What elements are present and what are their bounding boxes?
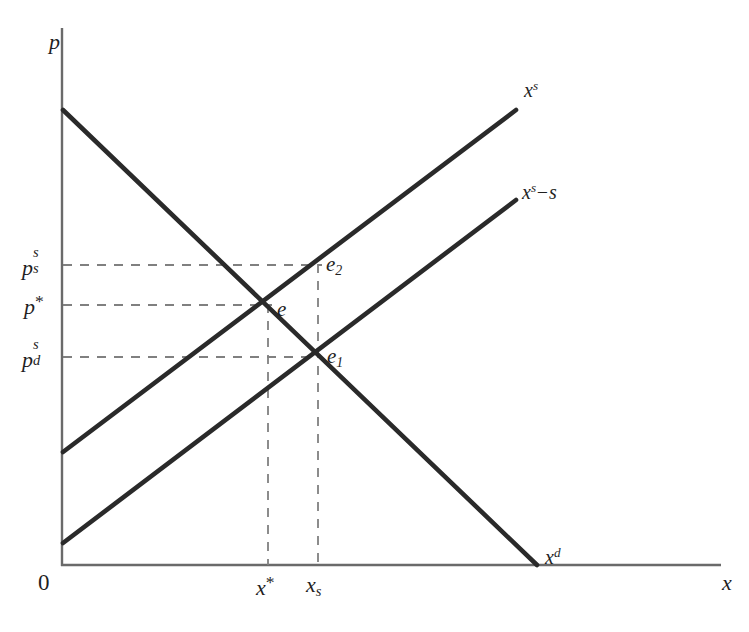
x-axis-label: x — [722, 572, 732, 594]
point-label-e: e — [277, 299, 286, 320]
quantity-tick-x-star: x* — [256, 574, 275, 599]
y-axis-label: p — [49, 31, 60, 53]
quantity-tick-x-s: xs — [306, 574, 321, 599]
supply-curve — [63, 110, 516, 452]
price-tick-ps-supply: pss — [22, 253, 47, 279]
price-tick-p-star: p* — [24, 293, 44, 318]
point-label-e2: e2 — [326, 254, 342, 278]
supply-minus-subsidy-curve — [63, 200, 516, 543]
supply-minus-subsidy-curve-label: xs−s — [522, 181, 557, 202]
origin-label: 0 — [38, 571, 50, 594]
demand-curve — [63, 110, 537, 565]
supply-demand-figure: p x 0 pss p* psd x* xs xs xs−s xd e e2 e… — [0, 0, 749, 632]
demand-curve-label: xd — [545, 546, 560, 567]
price-tick-pd-supply: psd — [22, 345, 47, 371]
point-label-e1: e1 — [327, 346, 343, 370]
supply-curve-label: xs — [524, 79, 538, 100]
plot-canvas — [0, 0, 749, 632]
